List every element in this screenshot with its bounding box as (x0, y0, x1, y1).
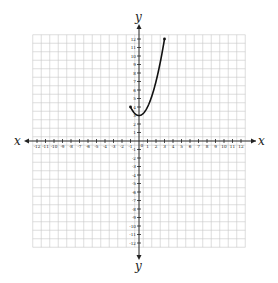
svg-text:-7: -7 (132, 198, 136, 203)
svg-text:4: 4 (133, 105, 136, 110)
svg-text:6: 6 (133, 88, 136, 93)
svg-text:-4: -4 (132, 173, 136, 178)
svg-text:4: 4 (172, 144, 175, 149)
svg-text:9: 9 (214, 144, 217, 149)
svg-text:7: 7 (197, 144, 200, 149)
svg-text:5: 5 (133, 96, 136, 101)
svg-text:-9: -9 (60, 144, 64, 149)
svg-text:-4: -4 (103, 144, 107, 149)
svg-text:-8: -8 (132, 207, 136, 212)
svg-text:8: 8 (133, 71, 136, 76)
svg-text:-8: -8 (69, 144, 73, 149)
coordinate-plane: -12-11-10-9-8-7-6-5-4-3-2-11234567891011… (0, 0, 278, 283)
axes (24, 24, 256, 260)
x-axis-label-left: x (14, 134, 21, 148)
svg-text:-12: -12 (129, 241, 136, 246)
svg-text:10: 10 (131, 54, 137, 59)
svg-text:1: 1 (133, 130, 136, 135)
y-axis-label-bottom: y (134, 259, 142, 273)
svg-text:-9: -9 (132, 215, 136, 220)
svg-text:-1: -1 (132, 147, 136, 152)
x-axis-label-right: x (258, 134, 265, 148)
svg-text:-7: -7 (77, 144, 81, 149)
svg-text:7: 7 (133, 79, 136, 84)
svg-text:9: 9 (133, 62, 136, 67)
svg-text:12: 12 (131, 37, 137, 42)
svg-text:2: 2 (133, 122, 136, 127)
svg-text:-11: -11 (42, 144, 49, 149)
svg-text:2: 2 (155, 144, 158, 149)
y-axis-label-top: y (134, 10, 142, 24)
svg-text:-12: -12 (34, 144, 41, 149)
svg-text:-3: -3 (111, 144, 115, 149)
svg-text:-2: -2 (132, 156, 136, 161)
svg-text:8: 8 (206, 144, 209, 149)
svg-text:-5: -5 (94, 144, 98, 149)
svg-text:11: 11 (230, 144, 236, 149)
svg-text:6: 6 (189, 144, 192, 149)
svg-text:11: 11 (131, 45, 137, 50)
svg-text:12: 12 (238, 144, 244, 149)
svg-text:-10: -10 (129, 224, 136, 229)
svg-text:5: 5 (180, 144, 183, 149)
svg-text:1: 1 (146, 144, 149, 149)
svg-text:-10: -10 (51, 144, 58, 149)
svg-text:10: 10 (221, 144, 227, 149)
svg-text:-6: -6 (132, 190, 136, 195)
svg-text:3: 3 (163, 144, 166, 149)
svg-text:-6: -6 (86, 144, 90, 149)
svg-text:0: 0 (141, 143, 144, 148)
svg-text:-3: -3 (132, 164, 136, 169)
svg-text:-5: -5 (132, 181, 136, 186)
svg-text:-11: -11 (129, 232, 136, 237)
svg-text:-2: -2 (120, 144, 124, 149)
